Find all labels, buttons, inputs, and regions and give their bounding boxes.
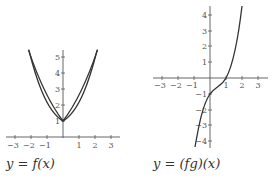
svg-text:1: 1 <box>76 141 81 150</box>
x-tick-labels: −3−2−1 123 <box>7 141 113 150</box>
svg-text:3: 3 <box>202 27 207 36</box>
y-tick-labels: 432 1−1−2 −3−4 <box>195 11 207 146</box>
svg-text:1: 1 <box>223 81 228 90</box>
svg-text:−3: −3 <box>7 141 19 150</box>
chart-f: −3−2−1 123 123 45 <box>6 50 120 150</box>
svg-text:−3: −3 <box>154 81 166 90</box>
svg-text:2: 2 <box>239 81 244 90</box>
svg-text:2: 2 <box>55 101 60 110</box>
svg-text:−1: −1 <box>195 90 207 99</box>
svg-text:3: 3 <box>108 141 113 150</box>
svg-text:3: 3 <box>255 81 260 90</box>
svg-text:1: 1 <box>202 58 207 67</box>
svg-text:4: 4 <box>55 69 60 78</box>
svg-text:3: 3 <box>55 85 60 94</box>
caption-f: y = f(x) <box>6 156 55 171</box>
svg-text:−2: −2 <box>23 141 35 150</box>
chart-fg: −3−2−1 123 432 1−1−2 −3−4 <box>153 6 268 148</box>
svg-text:2: 2 <box>202 42 207 51</box>
svg-text:−2: −2 <box>170 81 182 90</box>
svg-text:−1: −1 <box>39 141 51 150</box>
caption-fg: y = (fg)(x) <box>153 156 220 171</box>
svg-text:5: 5 <box>55 53 60 62</box>
svg-text:2: 2 <box>92 141 97 150</box>
svg-text:−2: −2 <box>195 106 207 115</box>
svg-text:4: 4 <box>202 11 207 20</box>
svg-text:−1: −1 <box>186 81 198 90</box>
charts-canvas: −3−2−1 123 123 45 −3−2−1 123 432 <box>0 0 272 178</box>
x-tick-labels: −3−2−1 123 <box>154 81 260 90</box>
svg-text:−3: −3 <box>195 121 207 130</box>
